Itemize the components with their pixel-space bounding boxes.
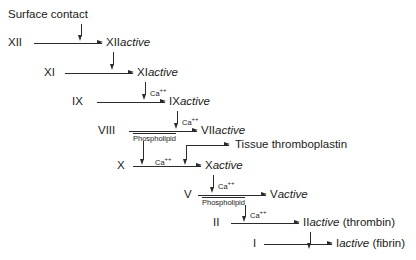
arrow-viii-pathway-to-x-reaction: [143, 141, 144, 160]
calcium-symbol: Ca: [218, 182, 228, 191]
factor-text-x: X: [117, 159, 125, 171]
surface-contact-label: Surface contact: [8, 8, 88, 20]
calcium-charge: ++: [228, 180, 235, 186]
factor-text-ix: IX: [72, 95, 83, 107]
reaction-arrow-xi: [65, 73, 133, 74]
arrow-ix-active-to-viii-reaction: [177, 111, 178, 124]
product-suffix-ii: active: [309, 216, 339, 228]
product-suffix-i: active: [339, 237, 369, 249]
arrow-xi-active-to-ix-reaction: [145, 82, 146, 95]
calcium-annotation-x-reaction: Ca++: [155, 156, 171, 166]
product-prefix-x: X: [205, 159, 213, 171]
factor-text-xii: XII: [8, 36, 22, 48]
product-prefix-xi: XI: [137, 66, 148, 78]
calcium-charge: ++: [165, 156, 172, 162]
factor-text-viii: VIII: [98, 124, 115, 136]
calcium-annotation-ii-reaction: Ca++: [250, 209, 266, 219]
calcium-charge: ++: [260, 209, 267, 215]
factor-text-v: V: [184, 188, 192, 200]
factor-label-v: V: [184, 189, 192, 201]
arrow-v-active-to-ii-reaction: [245, 205, 246, 217]
reaction-arrow-xii: [34, 43, 102, 44]
factor-label-ix: IX: [72, 96, 83, 108]
product-prefix-xii: XII: [106, 36, 120, 48]
product-label-i-active: Iactive (fibrin): [336, 238, 405, 250]
product-label-x-active: Xactive: [205, 160, 243, 172]
calcium-symbol: Ca: [250, 211, 260, 220]
arrow-surface-contact-to-xii-reaction: [81, 24, 82, 36]
reaction-arrow-v: [198, 195, 266, 196]
reaction-arrow-viii: [129, 131, 197, 132]
tissue-thromboplastin-label: Tissue thromboplastin: [235, 139, 347, 151]
coagulation-cascade-diagram: Surface contact XII XIIactive XI XIactiv…: [0, 0, 416, 260]
phospholipid-annotation-viii-reaction: Phospholipid: [133, 133, 176, 143]
product-suffix-xi: active: [148, 66, 178, 78]
arrow-tissue-thromboplastin-to-x-reaction: [186, 146, 187, 160]
reaction-arrow-ix: [97, 102, 165, 103]
product-label-ix-active: IXactive: [169, 96, 210, 108]
product-prefix-vii: VII: [201, 124, 215, 136]
reaction-arrow-x: [133, 166, 201, 167]
factor-label-xii: XII: [8, 37, 22, 49]
arrow-thrombin-to-i-reaction: [310, 232, 311, 244]
product-suffix-v: active: [278, 188, 308, 200]
calcium-charge: ++: [160, 87, 167, 93]
reaction-arrow-ii: [231, 223, 299, 224]
product-label-vii-active: VIIactive: [201, 125, 245, 137]
calcium-symbol: Ca: [155, 158, 165, 167]
factor-label-ii: II: [213, 217, 219, 229]
product-label-xi-active: XIactive: [137, 67, 178, 79]
factor-label-i: I: [253, 238, 256, 250]
product-label-xii-active: XIIactive: [106, 37, 150, 49]
product-prefix-v: V: [270, 188, 278, 200]
arrow-xii-active-to-xi-reaction: [113, 52, 114, 65]
factor-label-x: X: [117, 160, 125, 172]
factor-text-ii: II: [213, 216, 219, 228]
calcium-annotation-ix-reaction: Ca++: [150, 87, 166, 97]
reaction-arrow-i: [264, 244, 332, 245]
factor-label-viii: VIII: [98, 125, 115, 137]
product-label-v-active: Vactive: [270, 189, 308, 201]
factor-label-xi: XI: [44, 67, 55, 79]
arrow-x-active-to-v-reaction: [213, 175, 214, 188]
calcium-annotation-viii-reaction: Ca++: [182, 116, 198, 126]
product-suffix-xii: active: [120, 36, 150, 48]
phospholipid-annotation-v-reaction: Phospholipid: [202, 197, 245, 207]
calcium-charge: ++: [192, 116, 199, 122]
factor-text-i: I: [253, 237, 256, 249]
product-note-thrombin: (thrombin): [343, 216, 395, 228]
factor-text-xi: XI: [44, 66, 55, 78]
calcium-symbol: Ca: [150, 89, 160, 98]
product-suffix-x: active: [213, 159, 243, 171]
calcium-annotation-v-reaction: Ca++: [218, 180, 234, 190]
product-suffix-vii: active: [215, 124, 245, 136]
product-note-fibrin: (fibrin): [372, 237, 405, 249]
product-suffix-ix: active: [180, 95, 210, 107]
product-prefix-ix: IX: [169, 95, 180, 107]
product-label-ii-active: IIactive (thrombin): [303, 217, 395, 229]
arrow-to-tissue-thromboplastin: [186, 145, 229, 146]
calcium-symbol: Ca: [182, 118, 192, 127]
